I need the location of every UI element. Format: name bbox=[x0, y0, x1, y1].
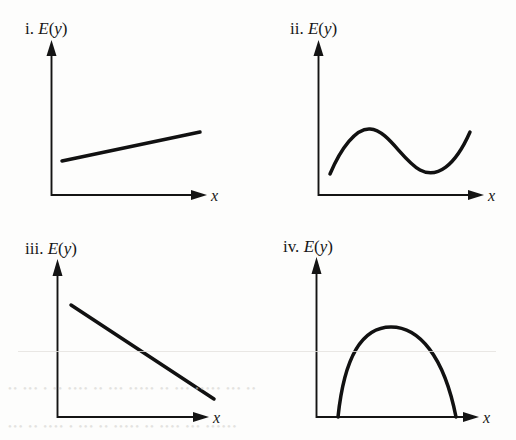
panel-i-enumerator: i. bbox=[25, 19, 34, 38]
panel-iii-ylabel-var: y bbox=[62, 239, 72, 258]
panel-iv-data-curve bbox=[338, 327, 456, 417]
panel-iv-ylabel-var: y bbox=[318, 237, 328, 256]
panel-iii-ylabel-close: ) bbox=[71, 239, 77, 258]
panel-i-x-axis-label: x bbox=[210, 187, 218, 204]
panel-ii-data-curve bbox=[330, 129, 470, 174]
panel-i-ylabel-fn: E bbox=[37, 19, 49, 38]
panel-iii: iii. E(y) x bbox=[25, 239, 220, 426]
panel-ii-x-axis-arrow-icon bbox=[468, 190, 484, 200]
four-panel-figure: i. E(y) x ii. E(y) x iii. E(y) bbox=[0, 0, 516, 440]
panel-i-y-axis-arrow-icon bbox=[47, 40, 57, 56]
panel-iii-enumerator: iii. bbox=[25, 239, 43, 258]
panel-i: i. E(y) x bbox=[25, 19, 218, 204]
panel-iii-x-axis-arrow-icon bbox=[193, 412, 209, 422]
panel-i-label: i. E(y) bbox=[25, 19, 68, 38]
panel-i-ylabel-var: y bbox=[52, 19, 62, 38]
panel-iv-ylabel-fn: E bbox=[303, 237, 315, 256]
panel-ii-y-axis-arrow-icon bbox=[314, 40, 324, 56]
panel-i-data-curve bbox=[62, 132, 200, 161]
figure-container: •• ••• • •• •••• •• ••• ••••• •• ••• •••… bbox=[0, 0, 516, 440]
panel-i-ylabel-close: ) bbox=[62, 19, 68, 38]
panel-iv-y-axis-arrow-icon bbox=[312, 257, 322, 274]
panel-ii-enumerator: ii. bbox=[290, 19, 304, 38]
panel-i-x-axis-arrow-icon bbox=[191, 190, 207, 200]
panel-ii-ylabel-close: ) bbox=[332, 19, 338, 38]
panel-ii-label: ii. E(y) bbox=[290, 19, 337, 38]
panel-ii-ylabel-var: y bbox=[322, 19, 332, 38]
panel-iv: iv. E(y) x bbox=[283, 237, 490, 426]
panel-iv-x-axis-label: x bbox=[482, 409, 490, 426]
panel-ii-ylabel-fn: E bbox=[307, 19, 319, 38]
panel-ii-x-axis-label: x bbox=[487, 187, 495, 204]
panel-iv-enumerator: iv. bbox=[283, 237, 299, 256]
panel-iii-data-curve bbox=[71, 305, 214, 399]
panel-iii-y-axis-arrow-icon bbox=[53, 259, 63, 276]
panel-iv-ylabel-close: ) bbox=[327, 237, 333, 256]
panel-iii-x-axis-label: x bbox=[212, 409, 220, 426]
panel-iii-ylabel-fn: E bbox=[47, 239, 59, 258]
panel-iv-label: iv. E(y) bbox=[283, 237, 333, 256]
panel-ii: ii. E(y) x bbox=[290, 19, 495, 204]
panel-iii-label: iii. E(y) bbox=[25, 239, 77, 258]
panel-iv-x-axis-arrow-icon bbox=[463, 412, 479, 422]
